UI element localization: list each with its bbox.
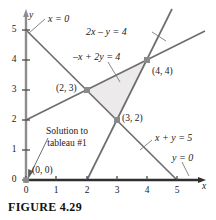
leader-line-y-eq-0: [182, 162, 189, 176]
x-tick-label-1: 1: [51, 186, 61, 196]
annotation-line-2: tableau #1: [30, 138, 104, 150]
x-tick-label-0: 0: [21, 186, 31, 196]
label-2x-minus-y-equals-4: 2x – y = 4: [86, 27, 127, 37]
x-tick-label-4: 4: [142, 186, 152, 196]
y-tick-label-2: 2: [9, 115, 19, 125]
figure-caption: FIGURE 4.29: [8, 201, 82, 213]
point-label-origin: (0, 0): [32, 166, 53, 176]
x-tick-label-3: 3: [112, 186, 122, 196]
marker-point-4-4: [144, 57, 150, 63]
point-label-2-3: (2, 3): [56, 84, 77, 94]
y-tick-label-4: 4: [9, 55, 19, 65]
figure-container: y x 0 1 2 3 4 5 0 1 2 3 4 5 x = 0 2x – y…: [0, 0, 216, 220]
label-minus-x-plus-2y-equals-4: –x + 2y = 4: [73, 52, 120, 62]
label-x-plus-y-equals-5: x + y = 5: [155, 133, 192, 143]
solution-annotation: Solution to tableau #1: [30, 126, 104, 149]
label-y-equals-0: y = 0: [172, 153, 193, 163]
point-label-3-2: (3, 2): [122, 114, 143, 124]
shaded-feasible-region: [87, 60, 147, 120]
y-axis-label: y: [29, 11, 33, 21]
y-tick-label-0: 0: [9, 175, 19, 185]
leader-line-x-eq-0: [29, 19, 45, 33]
label-x-equals-0: x = 0: [48, 14, 69, 24]
marker-origin: [23, 177, 29, 183]
marker-point-3-2: [114, 117, 120, 123]
x-tick-label-2: 2: [82, 186, 92, 196]
x-axis-label: x: [202, 182, 206, 192]
x-tick-label-5: 5: [172, 186, 182, 196]
y-tick-label-1: 1: [9, 145, 19, 155]
annotation-line-1: Solution to: [30, 126, 104, 138]
point-label-4-4: (4, 4): [152, 67, 173, 77]
y-tick-label-5: 5: [9, 25, 19, 35]
marker-point-2-3: [84, 87, 90, 93]
y-tick-label-3: 3: [9, 85, 19, 95]
